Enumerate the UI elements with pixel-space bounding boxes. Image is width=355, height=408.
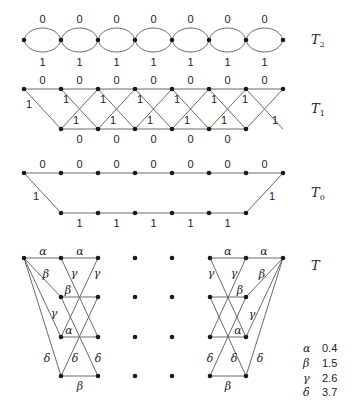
edge-label: 0 [150,133,156,145]
node [133,295,138,300]
legend-key-gamma: γ [303,372,310,385]
node [59,87,64,92]
edge-label: γ [208,267,215,280]
edge-label: 1 [174,93,180,105]
edge-label: 0 [76,158,82,170]
node [281,256,286,261]
edge-label: α [224,245,232,258]
edge-label: 0 [224,133,230,145]
node [170,38,175,43]
legend-key-beta: β [302,357,309,370]
edge-label: 1 [113,56,119,68]
node [208,295,213,300]
node [22,171,27,176]
node [133,38,138,43]
node [244,374,249,379]
node [59,256,64,261]
edge-label: 1 [63,93,69,105]
legend-value-beta: 1.5 [322,357,337,369]
edge-lower [209,40,246,52]
node [170,256,175,261]
edge-label: 0 [150,13,156,25]
legend-value-delta: 3.7 [322,386,337,398]
node [59,335,64,340]
node [208,256,213,261]
edge-label: 1 [137,93,143,105]
node [133,211,138,216]
edge-label: 1 [221,114,227,126]
edge-label: 0 [150,74,156,86]
diagram-t1: 0000000000001111111111111 [22,74,286,145]
edge-label: 0 [76,133,82,145]
node [170,87,175,92]
edge-label: δ [72,352,79,365]
node [208,335,213,340]
node [96,38,101,43]
node [22,38,27,43]
node [96,335,101,340]
edge-upper [172,28,209,40]
node [59,211,64,216]
node [244,38,249,43]
edge-label: 0 [113,133,119,145]
node [208,374,213,379]
legend-key-delta: δ [303,386,310,399]
edge-label: β [224,380,231,393]
legend: α 0.4 β 1.5 γ 2.6 δ 3.7 [302,342,337,399]
edge-label: δ [44,352,51,365]
edge-label: α [76,245,84,258]
diagram-t2: 01010101010101 [22,13,286,68]
edge-label: 1 [224,217,230,229]
edge-label: δ [231,352,238,365]
edge-label: 1 [76,217,82,229]
node [244,256,249,261]
edge-lower [98,40,135,52]
node [207,38,212,43]
edge-lower [246,40,283,52]
edge-label: δ [95,352,102,365]
edge-label: 1 [272,114,278,126]
legend-value-alpha: 0.4 [322,342,337,354]
edge-label: β [64,284,71,297]
node [170,295,175,300]
edge-label: 1 [187,217,193,229]
node [133,256,138,261]
edge-label: 0 [187,13,193,25]
node [133,171,138,176]
edge-label: 1 [147,114,153,126]
edge-label: 0 [76,13,82,25]
edge-label: γ [71,267,78,280]
edge-label: 1 [211,93,217,105]
edge-lower [61,40,98,52]
node [281,87,286,92]
edge-label: α [234,324,242,337]
edge-label: 0 [261,158,267,170]
edge-label: α [65,324,73,337]
diagram-t0: 00000001111111 [22,158,286,229]
edge-label: 0 [150,158,156,170]
node [244,295,249,300]
edge-label: 0 [39,74,45,86]
node [59,38,64,43]
edge-upper [209,28,246,40]
node [133,87,138,92]
edge-label: 1 [113,217,119,229]
edge-label: 1 [39,56,45,68]
edge-label: β [236,284,243,297]
graph-diagram: 01010101010101 0000000000001111111111111… [0,0,355,408]
edge-label: 0 [76,74,82,86]
node [133,374,138,379]
node [96,127,101,132]
node [207,87,212,92]
edge-label: 1 [110,114,116,126]
edge-label: 1 [261,56,267,68]
edge-label: 1 [76,56,82,68]
node [96,374,101,379]
diagram-t: ααββγγγαδδδβααββγγγαδδδβ [22,245,286,393]
edge-label: γ [231,267,238,280]
edge [246,173,283,213]
edge-label: α [260,245,268,258]
legend-value-gamma: 2.6 [322,372,337,384]
edge-label: 1 [187,56,193,68]
edge-label: γ [94,267,101,280]
